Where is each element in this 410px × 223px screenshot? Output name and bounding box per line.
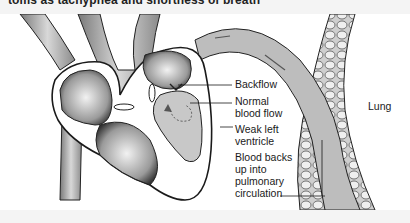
body-text-fragment: toms as tachypnea and shortness of breat… xyxy=(8,0,260,7)
label-backflow: Backflow xyxy=(235,78,277,90)
heart-failure-illustration: Backflow Normal blood flow Weak left ven… xyxy=(0,14,410,210)
label-normal-flow-2: blood flow xyxy=(235,107,282,119)
heart-drawing xyxy=(0,14,410,210)
label-backs-up-2: up into xyxy=(235,163,267,175)
label-normal-flow-1: Normal xyxy=(235,95,269,107)
label-backs-up-1: Blood backs xyxy=(235,151,292,163)
label-backs-up-3: pulmonary xyxy=(235,175,284,187)
label-weak-lv-2: ventricle xyxy=(235,135,274,147)
label-weak-lv-1: Weak left xyxy=(235,123,279,135)
page: toms as tachypnea and shortness of breat… xyxy=(0,0,410,223)
label-lung: Lung xyxy=(368,100,391,112)
label-backs-up-4: circulation xyxy=(235,187,282,199)
